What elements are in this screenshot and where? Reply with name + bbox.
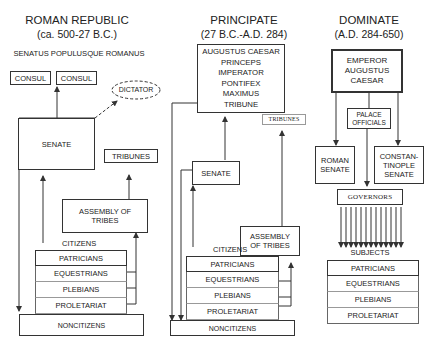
- principate-emperor-line: TRIBUNE: [224, 100, 258, 111]
- principate-title: PRINCIPATE: [198, 14, 290, 27]
- principate-tribunes: TRIBUNES: [262, 114, 306, 125]
- dominate-const-line: TINOPLE: [383, 161, 415, 170]
- dominate-class-equestrians: EQUESTRIANS: [327, 276, 419, 292]
- dominate-emperor-line: EMPEROR: [347, 56, 387, 66]
- dominate-roman-senate: ROMAN SENATE: [315, 146, 355, 184]
- republic-dictator: DICTATOR: [112, 86, 160, 93]
- principate-emperor-line: MAXIMUS: [223, 89, 259, 100]
- republic-class-equestrians: EQUESTRIANS: [35, 266, 127, 282]
- principate-class-proletariat: PROLETARIAT: [186, 304, 279, 320]
- republic-dates: (ca. 500-27 B.C.): [15, 28, 139, 40]
- dominate-title: DOMINATE: [332, 14, 406, 27]
- republic-consul-2: CONSUL: [56, 71, 97, 85]
- principate-senate: SENATE: [192, 161, 240, 185]
- principate-class-equestrians: EQUESTRIANS: [186, 272, 279, 288]
- dominate-class-proletariat: PROLETARIAT: [327, 308, 419, 324]
- principate-emperor-line: IMPERATOR: [218, 68, 264, 79]
- republic-class-plebians: PLEBIANS: [35, 282, 127, 298]
- republic-senate: SENATE: [18, 118, 95, 170]
- republic-class-proletariat: PROLETARIAT: [35, 298, 127, 314]
- dominate-const-line: SENATE: [384, 170, 413, 179]
- principate-citizens-label: CITIZENS: [213, 245, 247, 254]
- dominate-emperor-line: AUGUSTUS: [345, 66, 389, 76]
- principate-emperor-line: PRINCEPS: [221, 58, 261, 69]
- dominate-palace-officials: PALACE OFFICIALS: [347, 108, 391, 129]
- dominate-class-plebians: PLEBIANS: [327, 292, 419, 308]
- dominate-dates: (A.D. 284-650): [327, 28, 411, 40]
- republic-consul-1: CONSUL: [10, 71, 51, 85]
- principate-emperor: AUGUSTUS CAESAR PRINCEPS IMPERATOR PONTI…: [197, 44, 285, 113]
- republic-title: ROMAN REPUBLIC: [15, 14, 139, 27]
- principate-noncitizens: NONCITIZENS: [170, 320, 295, 336]
- republic-motto: SENATUS POPULUSQUE ROMANUS: [4, 49, 154, 58]
- principate-class-plebians: PLEBIANS: [186, 288, 279, 304]
- republic-assembly: ASSEMBLY OF TRIBES: [62, 199, 148, 233]
- dominate-const-line: CONSTAN-: [380, 152, 419, 161]
- principate-emperor-line: PONTIFEX: [222, 79, 261, 90]
- dominate-constantinople-senate: CONSTAN- TINOPLE SENATE: [374, 146, 424, 184]
- republic-citizens-label: CITIZENS: [62, 239, 96, 248]
- dominate-class-patricians: PATRICIANS: [327, 260, 419, 276]
- principate-emperor-line: AUGUSTUS CAESAR: [202, 47, 280, 58]
- republic-class-patricians: PATRICIANS: [35, 250, 127, 266]
- principate-dates: (27 B.C.-A.D. 284): [190, 28, 298, 40]
- principate-assembly: ASSEMBLY OF TRIBES: [240, 226, 300, 256]
- dominate-governors: GOVERNORS: [337, 189, 403, 205]
- dominate-emperor: EMPEROR AUGUSTUS CAESAR: [331, 49, 403, 93]
- dominate-subjects-label: SUBJECTS: [345, 248, 395, 257]
- republic-noncitizens: NONCITIZENS: [19, 314, 144, 336]
- principate-class-patricians: PATRICIANS: [186, 256, 279, 272]
- dominate-emperor-line: CAESAR: [351, 76, 384, 86]
- republic-tribunes: TRIBUNES: [104, 149, 158, 163]
